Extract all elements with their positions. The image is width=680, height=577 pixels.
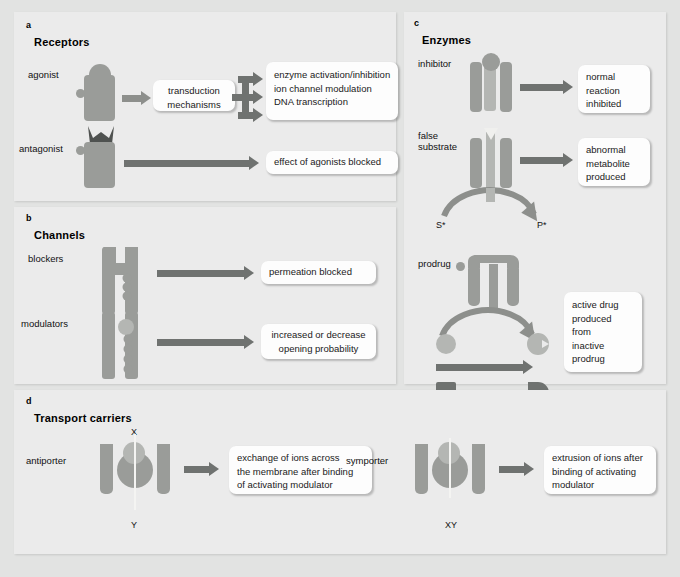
- callout-normal-reaction-inhibited: normal reaction inhibited: [578, 65, 650, 113]
- enzyme-arm-left: [470, 138, 482, 188]
- panel-d-letter: d: [26, 396, 32, 406]
- callout-opening-probability: increased or decrease opening probabilit…: [261, 324, 376, 359]
- panel-b-channels: b Channels blockers permeation blocked m…: [14, 207, 396, 384]
- arrow-modulators-to-outcome: [157, 339, 245, 346]
- carrier-wall-right: [472, 444, 485, 494]
- enzyme-arm-right: [500, 62, 512, 112]
- carrier-wall-right: [157, 444, 170, 494]
- annotation-xy-bottom: XY: [445, 520, 457, 530]
- enzyme-cleft: [484, 65, 496, 111]
- callout-receptor-outcomes: enzyme activation/inhibition ion channel…: [266, 62, 398, 120]
- arrow-blockers-to-outcome: [157, 270, 245, 277]
- panel-d-title: Transport carriers: [34, 412, 132, 424]
- callout-transduction-mechanisms: transduction mechanisms: [153, 80, 235, 111]
- receptor-body: [84, 75, 115, 121]
- arrow-branch-1: [238, 76, 254, 83]
- callout-abnormal-metabolite: abnormal metabolite produced: [578, 138, 650, 186]
- enzyme-arm-right: [500, 138, 512, 188]
- prodrug-enzyme-icon: [462, 254, 526, 310]
- channel-wall-left: [102, 312, 115, 379]
- row-label-false-substrate: false substrate: [418, 130, 457, 152]
- modulator-bumps-icon: [118, 333, 142, 379]
- arrow-agonist-to-transduction: [122, 95, 142, 102]
- annotation-p-star: P*: [537, 220, 547, 230]
- row-label-antiporter: antiporter: [26, 455, 66, 466]
- enzyme-arm-left: [470, 62, 482, 112]
- annotation-s-star: S*: [436, 220, 446, 230]
- substrate-entry-icon: [482, 128, 500, 142]
- callout-antagonist-outcome: effect of agonists blocked: [266, 151, 398, 174]
- panel-b-letter: b: [26, 213, 32, 223]
- substrate-channel-lower: [486, 188, 495, 202]
- arrow-branch-3: [238, 112, 254, 119]
- row-label-antagonist: antagonist: [19, 143, 63, 154]
- panel-c-enzymes: c Enzymes inhibitor normal reaction inhi…: [404, 12, 666, 384]
- callout-active-drug-produced: active drug produced from inactive prodr…: [564, 292, 642, 372]
- carrier-wall-left: [100, 444, 113, 494]
- row-label-modulators: modulators: [21, 318, 68, 329]
- panel-b-title: Channels: [34, 229, 85, 241]
- inhibitor-ligand-circle: [482, 53, 500, 71]
- receptor-body: [84, 142, 115, 188]
- panel-c-title: Enzymes: [422, 34, 471, 46]
- arrow-prodrug-conversion: [436, 364, 524, 371]
- arrow-false-substrate-to-outcome: [520, 157, 564, 164]
- pharmacology-drug-target-figure: a Receptors agonist transduction mechani…: [0, 0, 680, 577]
- transport-axis-line: [449, 438, 451, 498]
- panel-d-transport-carriers: d Transport carriers antiporter X Y exch…: [14, 390, 666, 554]
- row-label-agonist: agonist: [28, 69, 59, 80]
- branch-stem: [232, 94, 244, 101]
- receptor-side-dot: [76, 89, 85, 98]
- callout-permeation-blocked: permeation blocked: [261, 261, 376, 284]
- arrow-antiporter-to-outcome: [184, 466, 210, 473]
- callout-exchange-of-ions: exchange of ions across the membrane aft…: [229, 446, 372, 494]
- panel-a-letter: a: [26, 20, 31, 30]
- panel-a-receptors: a Receptors agonist transduction mechani…: [14, 12, 396, 201]
- arrow-antagonist-to-outcome: [124, 160, 250, 167]
- inactive-prodrug-circle: [436, 334, 456, 354]
- receptor-side-dot: [76, 146, 85, 155]
- active-drug-circle-notched-icon: [527, 332, 553, 358]
- row-label-prodrug: prodrug: [418, 258, 451, 269]
- prodrug-side-dot: [456, 262, 465, 271]
- transport-axis-line: [134, 434, 136, 510]
- row-label-inhibitor: inhibitor: [418, 58, 451, 69]
- carrier-wall-left: [415, 444, 428, 494]
- panel-a-title: Receptors: [34, 36, 90, 48]
- arrow-inhibitor-to-outcome: [520, 84, 564, 91]
- row-label-blockers: blockers: [28, 253, 63, 264]
- arrow-symporter-to-outcome: [499, 466, 525, 473]
- callout-extrusion-of-ions: extrusion of ions after binding of activ…: [544, 446, 656, 494]
- panel-c-letter: c: [414, 18, 419, 28]
- row-label-symporter: symporter: [346, 455, 388, 466]
- annotation-y-bottom: Y: [131, 520, 137, 530]
- blocker-plug-icon: [100, 245, 140, 317]
